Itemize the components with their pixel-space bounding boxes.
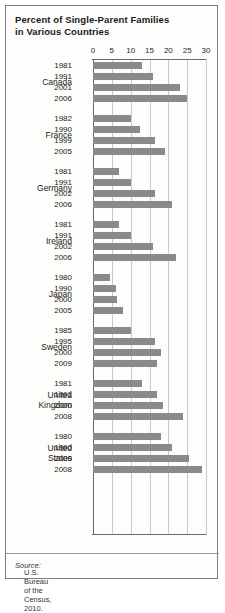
country-group: Japan1980199020002005 [6,272,219,316]
bar [93,296,117,303]
year-label: 1995 [46,336,72,347]
bar [93,455,189,462]
table-row: 2000 [6,400,219,411]
country-group: Sweden1985199520002009 [6,325,219,369]
bar [93,349,161,356]
table-row: 2000 [6,347,219,358]
year-label: 1981 [46,60,72,71]
country-group: UnitedKingdom1981199120002008 [6,378,219,422]
table-row: 1980 [6,431,219,442]
bar [93,221,119,228]
bar [93,232,131,239]
bar [93,126,140,133]
x-axis-tick-labels: 051015202530 [6,46,219,59]
bar [93,413,183,420]
chart-figure: Percent of Single-Parent Families in Var… [5,5,218,579]
year-label: 1985 [46,325,72,336]
year-label: 1981 [46,219,72,230]
bar [93,274,110,281]
table-row: 1982 [6,113,219,124]
table-row: 2002 [6,241,219,252]
year-label: 1991 [46,389,72,400]
year-label: 2008 [46,464,72,475]
bar [93,338,155,345]
group-gap [6,263,219,272]
year-label: 2000 [46,294,72,305]
table-row: 2008 [6,411,219,422]
year-label: 2005 [46,305,72,316]
year-label: 2006 [46,252,72,263]
table-row: 2008 [6,464,219,475]
bar [93,95,187,102]
bar [93,84,180,91]
year-label: 1991 [46,71,72,82]
table-row: 1985 [6,325,219,336]
country-group: Germany1981199120022006 [6,166,219,210]
group-gap [6,104,219,113]
bar [93,402,163,409]
chart-title-line-1: Percent of Single-Parent Families [15,14,210,26]
table-row: 2005 [6,146,219,157]
bar [93,179,131,186]
plot-area: 051015202530 Canada1981199120012006Franc… [6,46,219,535]
group-gap [6,422,219,431]
table-row: 2002 [6,188,219,199]
bar [93,148,165,155]
country-group: France1982199019992005 [6,113,219,157]
chart-title: Percent of Single-Parent Families in Var… [15,14,210,38]
x-tick-label: 25 [183,46,192,55]
year-label: 2006 [46,93,72,104]
table-row: 1991 [6,230,219,241]
table-row: 2001 [6,82,219,93]
bar [93,433,161,440]
table-row: 1981 [6,166,219,177]
table-row: 1999 [6,135,219,146]
bar [93,444,172,451]
group-gap [6,316,219,325]
table-row: 2000 [6,294,219,305]
table-row: 1981 [6,378,219,389]
bar [93,327,131,334]
table-row: 1995 [6,336,219,347]
bar [93,73,153,80]
x-tick-label: 5 [110,46,114,55]
bar [93,201,172,208]
bar [93,391,157,398]
year-label: 1981 [46,378,72,389]
year-label: 1980 [46,272,72,283]
source-value: U.S. Bureau of the Census, 2010. [24,568,52,613]
year-label: 2008 [46,411,72,422]
table-row: 1990 [6,442,219,453]
year-label: 2005 [46,146,72,157]
source-note: Source: U.S. Bureau of the Census, 2010. [6,553,219,578]
axis-bottom-line [92,534,206,535]
year-label: 2001 [46,82,72,93]
year-label: 1991 [46,177,72,188]
bar [93,360,157,367]
table-row: 2000 [6,453,219,464]
x-tick-label: 10 [126,46,135,55]
year-label: 2006 [46,199,72,210]
year-label: 2002 [46,188,72,199]
table-row: 1990 [6,124,219,135]
table-row: 1991 [6,177,219,188]
bar [93,137,155,144]
x-tick-label: 0 [91,46,95,55]
year-label: 1982 [46,113,72,124]
table-row: 2006 [6,93,219,104]
table-row: 2006 [6,252,219,263]
bar [93,243,153,250]
bar [93,168,119,175]
country-group: Ireland1981199120022006 [6,219,219,263]
group-gap [6,157,219,166]
table-row: 1991 [6,71,219,82]
year-label: 2000 [46,347,72,358]
year-label: 1999 [46,135,72,146]
source-text: Source: U.S. Bureau of the Census, 2010. [15,561,41,570]
country-group: UnitedStates1980199020002008 [6,431,219,475]
bar [93,62,142,69]
table-row: 1980 [6,272,219,283]
group-gap [6,210,219,219]
bar-rows: Canada1981199120012006France198219901999… [6,60,219,534]
year-label: 1980 [46,431,72,442]
